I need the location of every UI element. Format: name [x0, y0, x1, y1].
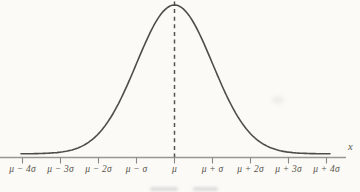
- cropped-caption-remnant: [150, 187, 178, 191]
- x-tick-label: μ + 4σ: [313, 164, 340, 175]
- x-tick-label: μ − 3σ: [47, 164, 74, 175]
- bell-curve-path: [21, 5, 330, 154]
- x-tick-label: μ + 2σ: [237, 164, 264, 175]
- cropped-caption-remnant: [193, 187, 218, 191]
- normal-distribution-figure: μ − 4σμ − 3σμ − 2σμ − σμμ + σμ + 2σμ + 3…: [0, 0, 360, 192]
- x-tick-label: μ + σ: [202, 164, 224, 175]
- x-tick-label: μ − 2σ: [85, 164, 112, 175]
- x-tick-label: μ − σ: [126, 164, 148, 175]
- x-axis-title: x: [348, 141, 353, 152]
- x-axis-ticks: [23, 158, 327, 164]
- x-tick-label: μ + 3σ: [275, 164, 302, 175]
- x-tick-label: μ − 4σ: [9, 164, 36, 175]
- x-tick-label: μ: [172, 164, 177, 175]
- scan-artifact-smudge: [272, 96, 284, 104]
